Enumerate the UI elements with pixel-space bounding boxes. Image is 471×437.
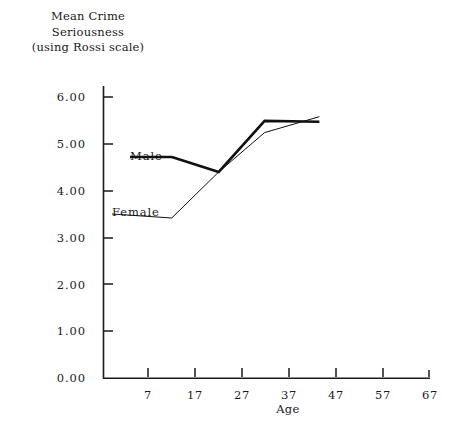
chart-figure: Mean Crime Seriousness (using Rossi scal… <box>0 0 471 437</box>
series-line-female <box>172 117 320 218</box>
plot-area <box>0 0 471 437</box>
y-axis-ticks <box>104 97 113 331</box>
x-axis-ticks <box>148 368 429 377</box>
series-line-male <box>172 121 320 172</box>
axis-spines <box>103 86 430 379</box>
leader-line-female <box>112 214 172 218</box>
